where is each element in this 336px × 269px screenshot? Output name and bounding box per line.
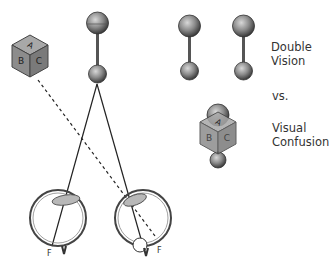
svg-text:B: B: [18, 56, 24, 66]
abc-block-icon: A B C: [12, 35, 48, 77]
fovea-label-right: F: [157, 246, 162, 255]
dumbbell-target-icon: [87, 12, 109, 83]
svg-text:C: C: [36, 56, 42, 66]
double-vision-label: Double Vision: [271, 40, 312, 68]
left-eye-sight-line: [52, 84, 97, 246]
svg-text:C: C: [224, 133, 230, 143]
double-vision-line1: Double: [271, 40, 312, 54]
svg-text:B: B: [206, 133, 212, 143]
double-vision-dumbbell-left-icon: [179, 15, 201, 80]
visual-confusion-label: Visual Confusion: [272, 121, 329, 149]
visual-confusion-line2: Confusion: [272, 135, 329, 149]
visual-confusion-overlay-icon: A B C: [200, 104, 236, 168]
double-vision-dumbbell-right-icon: [233, 15, 255, 80]
block-dashed-line: [38, 80, 155, 236]
visual-confusion-line1: Visual: [272, 121, 329, 135]
right-eye-icon: [115, 190, 171, 256]
right-eye-sight-line: [97, 84, 143, 246]
vs-label: vs.: [272, 89, 288, 103]
left-eye-icon: [30, 190, 86, 254]
fovea-label-left: F: [47, 249, 52, 258]
double-vision-line2: Vision: [271, 54, 312, 68]
